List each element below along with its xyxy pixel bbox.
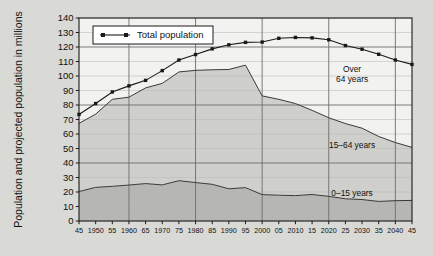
xtick-label-1980: 1980 <box>188 226 204 235</box>
xtick-label-1995: 95 <box>242 226 250 235</box>
xtick-label-2010: 2010 <box>287 226 303 235</box>
marker-total-population <box>260 40 263 43</box>
xtick-label-2045: 45 <box>408 226 416 235</box>
marker-total-population <box>327 38 330 41</box>
marker-total-population <box>127 84 130 87</box>
ytick-label-80: 80 <box>63 99 74 110</box>
marker-total-population <box>177 58 180 61</box>
xtick-label-2030: 2030 <box>354 226 370 235</box>
marker-total-population <box>161 69 164 72</box>
ytick-label-130: 130 <box>58 27 74 38</box>
xtick-label-1970: 1970 <box>154 226 170 235</box>
ytick-label-20: 20 <box>63 186 74 197</box>
marker-total-population <box>394 58 397 61</box>
marker-total-population <box>310 36 313 39</box>
marker-total-population <box>344 44 347 47</box>
marker-total-population <box>377 53 380 56</box>
ytick-label-50: 50 <box>63 143 74 154</box>
xtick-label-1985: 85 <box>208 226 216 235</box>
marker-total-population <box>144 79 147 82</box>
marker-total-population <box>111 90 114 93</box>
ytick-label-110: 110 <box>58 56 73 67</box>
marker-total-population <box>294 36 297 39</box>
ytick-label-30: 30 <box>63 172 74 183</box>
xtick-label-2000: 2000 <box>254 226 270 235</box>
marker-total-population <box>277 37 280 40</box>
ytick-label-60: 60 <box>63 128 74 139</box>
annotation-0-15-years: 0–15 years <box>331 188 372 198</box>
annotation-over-64-years-line2: 64 years <box>336 74 368 84</box>
ytick-label-0: 0 <box>68 215 73 226</box>
xtick-label-2040: 2040 <box>387 226 403 235</box>
xtick-label-2025: 25 <box>341 226 349 235</box>
xtick-label-1950: 1950 <box>88 226 104 235</box>
xtick-label-1955: 55 <box>108 226 116 235</box>
ytick-label-10: 10 <box>63 201 74 212</box>
xtick-label-1960: 1960 <box>121 226 137 235</box>
marker-total-population <box>94 102 97 105</box>
ytick-label-90: 90 <box>63 85 74 96</box>
marker-total-population <box>211 47 214 50</box>
ytick-label-40: 40 <box>63 157 74 168</box>
xtick-label-1990: 1990 <box>221 226 237 235</box>
annotation-over-64-years: Over <box>343 64 361 74</box>
ytick-label-70: 70 <box>63 114 74 125</box>
ytick-label-120: 120 <box>58 41 74 52</box>
legend-marker-left <box>101 33 105 37</box>
xtick-label-1945: 45 <box>75 226 83 235</box>
marker-total-population <box>227 43 230 46</box>
legend-label-total-population: Total population <box>137 29 204 40</box>
marker-total-population <box>360 47 363 50</box>
population-projection-chart: 0102030405060708090100110120130140451950… <box>0 0 433 256</box>
legend-marker-right <box>124 33 128 37</box>
chart-figure: 0102030405060708090100110120130140451950… <box>0 0 433 256</box>
xtick-label-2015: 15 <box>308 226 316 235</box>
marker-total-population <box>244 41 247 44</box>
xtick-label-1975: 75 <box>175 226 183 235</box>
marker-total-population <box>194 53 197 56</box>
ytick-label-100: 100 <box>58 70 74 81</box>
xtick-label-1965: 65 <box>142 226 150 235</box>
y-axis-title: Population and projected population in m… <box>12 11 24 228</box>
annotation-15-64-years: 15–64 years <box>329 140 375 150</box>
ytick-label-140: 140 <box>58 12 74 23</box>
xtick-label-2035: 35 <box>375 226 383 235</box>
xtick-label-2020: 2020 <box>321 226 337 235</box>
xtick-label-2005: 05 <box>275 226 283 235</box>
